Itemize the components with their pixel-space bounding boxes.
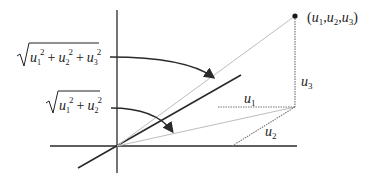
vector-magnitude-diagram: (u1,u2,u3) u3 u1 u2 u12+u22+u32 u12+u22 <box>0 0 375 178</box>
u1-label: u1 <box>244 91 256 108</box>
magnitude-2d-formula: u12+u22 <box>46 91 102 115</box>
magnitude-3d-formula: u12+u22+u32 <box>17 43 101 67</box>
u3-label: u3 <box>301 74 313 91</box>
arrow-3d-magnitude-icon <box>110 57 213 77</box>
vector-endpoint-dot <box>292 13 297 18</box>
u2-component-line <box>232 107 295 146</box>
svg-text:u12+u22+u32: u12+u22+u32 <box>30 47 101 67</box>
depth-axis <box>78 75 241 168</box>
point-label: (u1,u2,u3) <box>307 10 358 27</box>
u2-label: u2 <box>265 124 277 141</box>
svg-text:u12+u22: u12+u22 <box>59 95 102 115</box>
